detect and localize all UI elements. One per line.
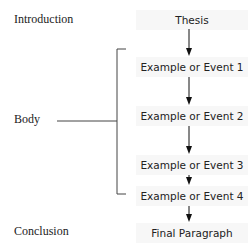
body-bracket (117, 49, 126, 194)
